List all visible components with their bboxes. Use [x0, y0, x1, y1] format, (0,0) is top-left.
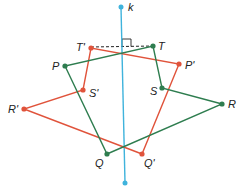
line-k	[121, 7, 125, 183]
label-k: k	[128, 1, 134, 13]
vertex-q-prime	[139, 151, 144, 156]
label-p: P	[52, 60, 60, 72]
label-s-prime: S'	[89, 87, 99, 99]
image-polygon	[24, 48, 179, 154]
vertex-t-prime	[88, 45, 93, 50]
vertex-r-prime	[21, 106, 26, 111]
label-t-prime: T'	[76, 41, 86, 53]
vertex-t	[150, 43, 155, 48]
vertex-r	[219, 101, 224, 106]
line-k-top-point	[119, 5, 124, 10]
label-r-prime: R'	[8, 103, 19, 115]
reflection-diagram: k T' T P P' S' S R' R Q Q'	[0, 0, 238, 192]
vertex-s-prime	[80, 87, 85, 92]
label-q-prime: Q'	[144, 157, 156, 169]
label-p-prime: P'	[185, 59, 195, 71]
vertex-s	[159, 85, 164, 90]
right-angle-marker	[122, 39, 131, 47]
label-r: R	[228, 98, 236, 110]
label-s: S	[150, 85, 158, 97]
vertex-p-prime	[176, 61, 181, 66]
label-t: T	[158, 40, 166, 52]
line-k-bottom-point	[123, 181, 128, 186]
vertex-q	[104, 151, 109, 156]
label-q: Q	[95, 157, 104, 169]
vertex-p	[62, 63, 67, 68]
